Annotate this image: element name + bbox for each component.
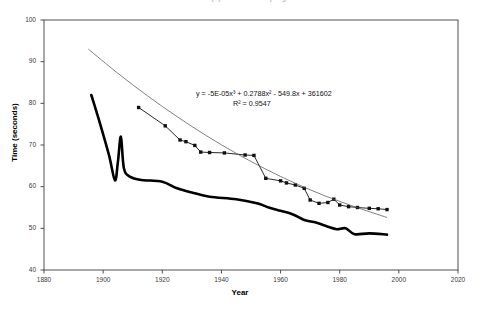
data-point-marker [223,151,226,154]
data-point-marker [184,140,187,143]
data-point-marker [178,138,181,141]
trendline-curve [88,49,387,217]
data-point-marker [243,153,246,156]
data-point-marker [385,208,388,211]
data-point-marker [317,202,320,205]
data-series-line [139,108,387,210]
data-point-marker [208,151,211,154]
data-point-marker [264,177,267,180]
data-point-marker [347,205,350,208]
chart-container: Men's 800m (?) world record progression … [0,0,480,312]
data-point-marker [199,150,202,153]
data-point-marker [368,207,371,210]
data-point-marker [285,181,288,184]
axes-group [41,20,459,274]
data-point-marker [193,144,196,147]
plot-canvas [0,0,480,312]
data-point-marker [164,124,167,127]
series-group [88,49,388,234]
thick-series-line [91,95,387,235]
data-point-marker [137,106,140,109]
data-point-marker [279,179,282,182]
data-point-marker [308,198,311,201]
data-point-marker [252,154,255,157]
data-point-marker [338,203,341,206]
data-point-marker [376,207,379,210]
data-point-marker [326,201,329,204]
